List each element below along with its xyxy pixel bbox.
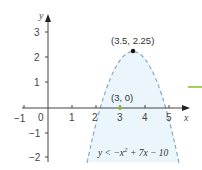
- inequality-label: y < −x2 + 7x − 10: [97, 146, 169, 158]
- origin-label: 0: [38, 112, 44, 123]
- inequality-lhs: y < −x: [97, 148, 125, 158]
- x-axis-label: x: [183, 112, 189, 123]
- y-tick-label-neg1: −1: [29, 128, 41, 139]
- y-tick-label-1: 1: [34, 77, 40, 88]
- inequality-graph: y x −1 0 1 2 3 4 5 3 2 1 −1 −2 (3.5, 2.2…: [0, 0, 202, 170]
- y-tick-label-3: 3: [34, 27, 40, 38]
- x-tick-label-1: 1: [69, 112, 75, 123]
- x-tick-label-neg1: −1: [14, 113, 26, 124]
- y-tick-label-neg2: −2: [29, 152, 41, 163]
- x-tick-label-4: 4: [142, 112, 148, 123]
- y-axis-arrow-icon: [45, 14, 51, 22]
- vertex-point: [131, 49, 135, 53]
- y-axis-label: y: [38, 10, 44, 21]
- x-tick-label-3: 3: [117, 112, 123, 123]
- test-point: [118, 106, 122, 110]
- vertex-label: (3.5, 2.25): [111, 35, 154, 46]
- x-axis-arrow-icon: [182, 105, 190, 111]
- test-point-label: (3, 0): [111, 92, 133, 103]
- x-tick-label-2: 2: [92, 112, 98, 123]
- inequality-rhs: + 7x − 10: [128, 148, 169, 158]
- y-tick-label-2: 2: [34, 52, 40, 63]
- x-tick-label-5: 5: [166, 112, 172, 123]
